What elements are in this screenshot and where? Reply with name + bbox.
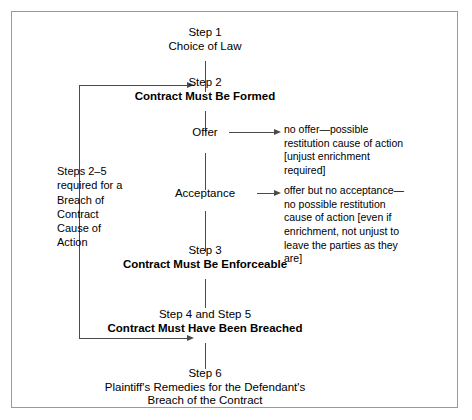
substep-offer-label: Offer (192, 126, 217, 138)
node-step1-step: Step 1 (125, 26, 285, 40)
left-block-line-6: Action (57, 235, 135, 249)
left-block-line-2: required for a (57, 178, 135, 192)
node-step45-step: Step 4 and Step 5 (80, 308, 330, 322)
connector-step45-step6 (205, 343, 206, 369)
node-step1: Step 1 Choice of Law (125, 26, 285, 53)
left-block-line-5: Cause of (57, 221, 135, 235)
node-step6: Step 6 Plaintiff's Remedies for the Defe… (65, 367, 345, 408)
arrowhead-to-no-offer-annotation (274, 129, 281, 135)
no-offer-line-2: restitution cause of action (284, 137, 454, 151)
node-step2-title: Contract Must Be Formed (105, 90, 305, 104)
connector-offer-acceptance (205, 153, 206, 190)
no-acceptance-line-3: cause of action [even if (284, 211, 456, 225)
no-acceptance-annotation: offer but no acceptance— no possible res… (284, 184, 456, 266)
no-acceptance-line-4: enrichment, not unjust to (284, 225, 456, 239)
node-step6-step: Step 6 (65, 367, 345, 381)
node-step45-title: Contract Must Have Been Breached (80, 322, 330, 336)
no-acceptance-line-1: offer but no acceptance— (284, 184, 456, 198)
no-offer-annotation: no offer—possible restitution cause of a… (284, 123, 454, 178)
no-offer-line-4: required] (284, 164, 454, 178)
left-block-line-1: Steps 2–5 (57, 164, 135, 178)
flowchart-figure: Step 1 Choice of Law Step 2 Contract Mus… (0, 0, 472, 420)
steps-2-5-requirement-block: Steps 2–5 required for a Breach of Contr… (57, 164, 135, 250)
no-offer-line-1: no offer—possible (284, 123, 454, 137)
node-step6-title-line2: Breach of the Contract (65, 394, 345, 408)
arrowhead-to-step45 (187, 335, 194, 341)
node-step3-title: Contract Must Be Enforceable (95, 258, 315, 272)
node-step2: Step 2 Contract Must Be Formed (105, 76, 305, 103)
connector-step3-step45 (205, 279, 206, 308)
node-step2-step: Step 2 (105, 76, 305, 90)
substep-acceptance: Acceptance (155, 187, 255, 199)
substep-offer: Offer (165, 126, 245, 138)
left-block-line-4: Contract (57, 207, 135, 221)
substep-acceptance-label: Acceptance (175, 187, 235, 199)
figure-border: Step 1 Choice of Law Step 2 Contract Mus… (11, 11, 458, 408)
node-step45: Step 4 and Step 5 Contract Must Have Bee… (80, 308, 330, 335)
no-offer-line-3: [unjust enrichment (284, 150, 454, 164)
node-step6-title: Plaintiff's Remedies for the Defendant's (65, 381, 345, 395)
arrowhead-to-no-acceptance-annotation (274, 190, 281, 196)
left-bracket-bottom-arm (79, 338, 187, 339)
no-acceptance-line-6: are] (284, 252, 456, 266)
no-acceptance-line-5: leave the parties as they (284, 239, 456, 253)
node-step1-title: Choice of Law (125, 40, 285, 54)
no-acceptance-line-2: no possible restitution (284, 198, 456, 212)
left-block-line-3: Breach of (57, 193, 135, 207)
